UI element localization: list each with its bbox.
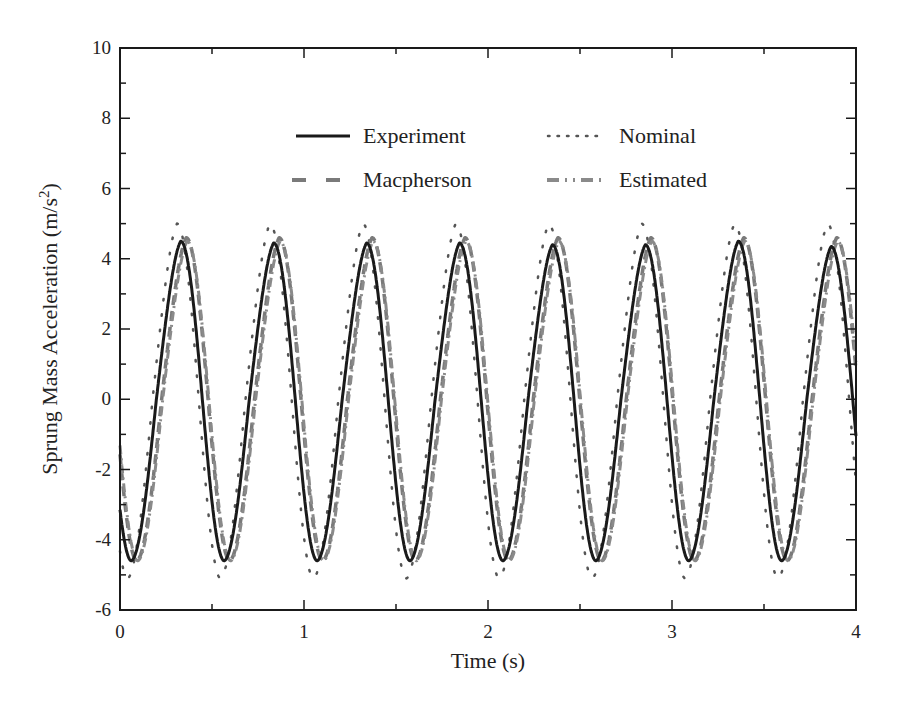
x-tick-label: 0 <box>115 621 125 642</box>
y-tick-label: 6 <box>102 178 112 199</box>
legend-label: Estimated <box>619 167 707 192</box>
y-tick-label: -6 <box>95 599 111 620</box>
legend-item-experiment: Experiment <box>296 123 466 148</box>
legend-label: Experiment <box>363 123 466 148</box>
legend-label: Nominal <box>619 123 696 148</box>
y-tick-label: 2 <box>102 318 112 339</box>
y-axis-title: Sprung Mass Acceleration (m/s2) <box>36 183 62 475</box>
chart-canvas: 01234 -6-4-20246810 Time (s) Sprung Mass… <box>0 0 898 706</box>
legend-item-nominal: Nominal <box>548 123 696 148</box>
legend: Experiment Nominal Macpherson Estimated <box>292 123 707 192</box>
axis-ticks <box>120 48 856 610</box>
legend-label: Macpherson <box>363 167 472 192</box>
x-tick-label: 2 <box>483 621 493 642</box>
plot-frame <box>120 48 856 610</box>
y-tick-label: 0 <box>102 388 112 409</box>
y-tick-label: -4 <box>95 529 111 550</box>
legend-item-estimated: Estimated <box>547 167 707 192</box>
x-tick-label: 4 <box>851 621 861 642</box>
x-axis-title: Time (s) <box>451 648 525 673</box>
y-tick-label: -2 <box>95 459 111 480</box>
y-tick-label: 10 <box>92 37 111 58</box>
y-tick-label: 4 <box>102 248 112 269</box>
series-layer <box>120 224 856 579</box>
y-tick-label: 8 <box>102 107 112 128</box>
x-tick-label: 1 <box>299 621 309 642</box>
x-tick-label: 3 <box>667 621 677 642</box>
x-tick-labels: 01234 <box>115 621 861 642</box>
legend-item-macpherson: Macpherson <box>292 167 472 192</box>
y-tick-labels: -6-4-20246810 <box>92 37 112 620</box>
